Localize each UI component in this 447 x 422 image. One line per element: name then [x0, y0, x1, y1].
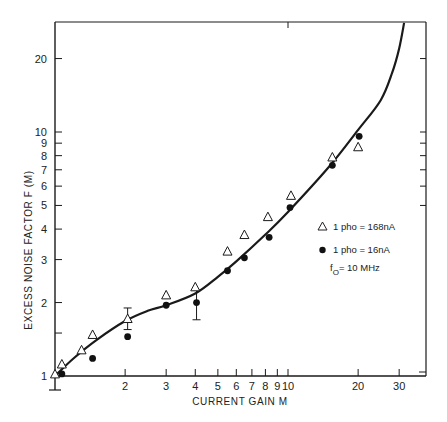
- legend-label-168nA: 1 pho = 168nA: [333, 221, 396, 232]
- circle-point: [89, 355, 96, 362]
- triangle-point: [57, 359, 66, 368]
- triangle-point: [162, 290, 171, 299]
- triangle-point: [286, 191, 295, 200]
- triangle-series-168nA: [51, 142, 363, 378]
- legend-label-16nA: 1 pho = 16nA: [333, 244, 390, 255]
- y-tick-label: 1: [41, 370, 47, 382]
- legend-triangle-icon: [318, 222, 327, 230]
- triangle-point: [328, 152, 337, 161]
- circle-point: [163, 302, 170, 309]
- y-axis-title: EXCESS NOISE FACTOR F (M): [23, 170, 34, 329]
- x-axis-ticks: 23456789102030: [122, 369, 405, 392]
- y-axis-ticks: 1234567891020: [35, 53, 62, 382]
- circle-point: [224, 267, 231, 274]
- x-tick-label: 8: [262, 380, 268, 392]
- triangle-point: [354, 142, 363, 151]
- x-tick-label: 3: [163, 380, 169, 392]
- legend: 1 pho = 168nA 1 pho = 16nA fO= 10 MHz: [318, 221, 396, 277]
- circle-point: [356, 133, 363, 140]
- theory-curve: [55, 23, 404, 376]
- legend-dot-icon: [319, 247, 325, 253]
- x-tick-label: 7: [249, 380, 255, 392]
- circle-point: [241, 254, 248, 261]
- triangle-point: [191, 282, 200, 291]
- triangle-point: [263, 212, 272, 221]
- circle-point: [287, 204, 294, 211]
- x-tick-label: 2: [122, 380, 128, 392]
- x-axis-title: CURRENT GAIN M: [192, 396, 287, 407]
- x-tick-label: 30: [393, 380, 405, 392]
- y-tick-label: 3: [41, 254, 47, 266]
- y-tick-label: 7: [41, 164, 47, 176]
- circle-series-16nA: [58, 133, 362, 377]
- triangle-point: [223, 247, 232, 256]
- x-tick-label: 4: [192, 380, 198, 392]
- x-tick-label: 10: [282, 380, 294, 392]
- circle-point: [124, 333, 131, 340]
- y-tick-label: 6: [41, 180, 47, 192]
- x-tick-label: 6: [233, 380, 239, 392]
- circle-point: [329, 162, 336, 169]
- x-tick-label: 20: [352, 380, 364, 392]
- triangle-point: [240, 230, 249, 239]
- y-tick-label: 8: [41, 150, 47, 162]
- triangle-point: [88, 330, 97, 339]
- circle-point: [266, 234, 273, 241]
- x-tick-label: 9: [274, 380, 280, 392]
- y-tick-label: 4: [41, 223, 47, 235]
- circle-point: [58, 371, 65, 378]
- y-tick-label: 20: [35, 53, 47, 65]
- circle-point: [193, 299, 200, 306]
- y-tick-label: 9: [41, 137, 47, 149]
- y-tick-label: 5: [41, 199, 47, 211]
- noise-factor-chart: 23456789102030 1234567891020 CURRENT GAI…: [0, 0, 447, 422]
- y-tick-label: 2: [41, 297, 47, 309]
- y-tick-label: 10: [35, 126, 47, 138]
- legend-frequency-annotation: fO= 10 MHz: [330, 262, 380, 277]
- x-tick-label: 5: [215, 380, 221, 392]
